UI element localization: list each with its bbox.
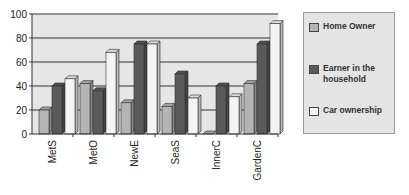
y-tick-label: 0 [21,129,27,140]
y-tick-label: 40 [16,81,28,92]
legend-swatch-earner [309,65,319,74]
legend-label: Home Owner [323,21,389,32]
bar [121,100,134,134]
bar [244,81,257,134]
bar [106,49,119,134]
bar [229,94,242,134]
x-tick-label: NewE [129,140,140,167]
bar [175,71,188,134]
y-axis-ticks: 020406080100 [10,9,32,140]
y-tick-label: 100 [10,9,27,20]
bar [65,76,78,134]
legend-swatch-car-ownership [309,107,319,116]
bar [162,103,175,134]
bar [216,83,229,134]
x-tick-label: SeaS [170,140,181,165]
legend-label: Car ownership [323,105,389,116]
bar [147,41,160,134]
bar [52,83,65,134]
bar [134,41,147,134]
bar [257,41,270,134]
legend-item-home-owner: Home Owner [309,21,389,32]
bar [270,21,283,134]
x-tick-label: MetO [88,140,99,165]
x-tick-label: GardenC [252,140,263,181]
bar [39,107,52,134]
y-tick-label: 80 [16,33,28,44]
y-tick-label: 20 [16,105,28,116]
legend-label: Earner in the household [323,63,389,85]
y-tick-label: 60 [16,57,28,68]
legend-swatch-home-owner [309,23,319,32]
legend: Home Owner Earner in the household Car o… [303,12,395,134]
legend-item-car-ownership: Car ownership [309,105,389,116]
x-tick-label: MetS [47,140,58,164]
legend-item-earner: Earner in the household [309,63,389,85]
x-tick-label: InnerC [211,140,222,170]
x-axis-ticks: MetSMetONewESeaSInnerCGardenC [47,134,279,181]
bar [93,88,106,134]
bar [80,81,93,134]
bar [188,95,201,134]
